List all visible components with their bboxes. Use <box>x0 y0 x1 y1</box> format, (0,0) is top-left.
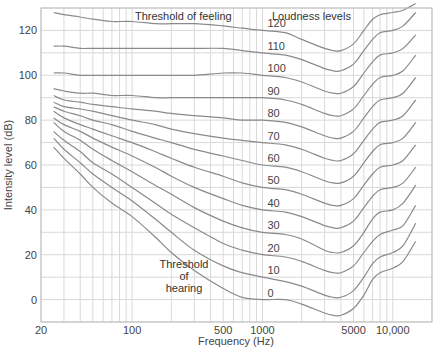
curve-label-10: 10 <box>267 264 279 276</box>
curve-label-40: 40 <box>267 197 279 209</box>
y-tick-label: 60 <box>25 159 37 171</box>
curve-label-60: 60 <box>267 152 279 164</box>
curve-label-0: 0 <box>267 287 273 299</box>
y-tick-label: 0 <box>31 294 37 306</box>
annotation-text: Threshold <box>160 258 209 270</box>
loudness-curve-70 <box>54 100 416 161</box>
x-tick-label: 5000 <box>341 324 365 336</box>
loudness-curve-10 <box>54 138 416 298</box>
annotation-text: Threshold of feeling <box>135 10 232 22</box>
x-axis-label: Frequency (Hz) <box>198 335 274 347</box>
annotation-text: hearing <box>166 282 203 294</box>
loudness-curve-0 <box>54 147 416 316</box>
equal-loudness-chart: 020406080100120 201005001000500010,000 0… <box>0 0 438 350</box>
loudness-curve-120 <box>54 4 416 52</box>
x-tick-label: 10,000 <box>376 324 410 336</box>
y-axis-ticks: 020406080100120 <box>19 24 37 305</box>
curve-label-20: 20 <box>267 242 279 254</box>
y-tick-label: 100 <box>19 69 37 81</box>
curve-label-30: 30 <box>267 219 279 231</box>
y-tick-label: 80 <box>25 114 37 126</box>
loudness-curve-100 <box>54 35 416 94</box>
y-tick-label: 40 <box>25 204 37 216</box>
y-tick-label: 20 <box>25 249 37 261</box>
loudness-curve-90 <box>54 55 416 116</box>
x-tick-label: 20 <box>35 324 47 336</box>
curve-label-100: 100 <box>267 62 285 74</box>
curve-label-80: 80 <box>267 107 279 119</box>
loudness-curve-80 <box>54 78 416 139</box>
y-tick-label: 120 <box>19 24 37 36</box>
x-tick-label: 100 <box>123 324 141 336</box>
curve-label-90: 90 <box>267 85 279 97</box>
annotation-text: of <box>179 270 189 282</box>
annotation-text: Loudness levels <box>272 10 351 22</box>
y-axis-label: Intensity level (dB) <box>2 120 14 210</box>
grid-lines <box>41 8 432 322</box>
curve-label-110: 110 <box>267 40 285 52</box>
curve-label-50: 50 <box>267 174 279 186</box>
loudness-curves <box>54 4 416 316</box>
curve-label-70: 70 <box>267 130 279 142</box>
